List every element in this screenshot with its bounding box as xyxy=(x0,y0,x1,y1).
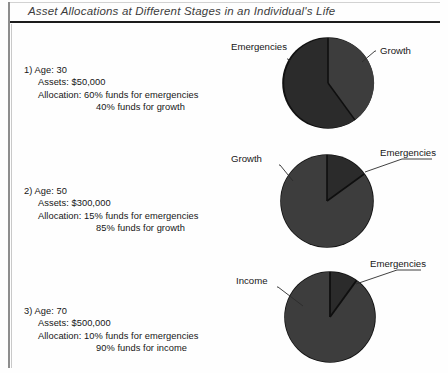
frame-left-border xyxy=(8,2,10,368)
pie-chart-age-30: Emergencies Growth xyxy=(225,30,448,136)
stage-3-assets: Assets: $500,000 xyxy=(38,317,199,329)
figure-page: Asset Allocations at Different Stages in… xyxy=(0,0,448,373)
stage-1-description: 1) Age: 30 Assets: $50,000 Allocation: 6… xyxy=(24,64,199,114)
stage-2-assets: Assets: $300,000 xyxy=(38,197,199,209)
pie-2-label-growth: Growth xyxy=(231,153,262,164)
title-underline-rule xyxy=(10,21,440,23)
pie-3-label-income: Income xyxy=(236,275,267,286)
stage-3-age: 3) Age: 70 xyxy=(24,305,199,317)
stage-2-description: 2) Age: 50 Assets: $300,000 Allocation: … xyxy=(24,185,199,235)
pie-2-label-emergencies: Emergencies xyxy=(380,147,436,158)
figure-title: Asset Allocations at Different Stages in… xyxy=(28,5,335,17)
pie-2-leader-emergencies xyxy=(365,159,432,172)
stage-1-allocation-line-2: 40% funds for growth xyxy=(96,101,199,113)
stage-2-allocation-line-2: 85% funds for growth xyxy=(96,222,199,234)
frame-left-hairline xyxy=(11,24,12,368)
stage-1-age: 1) Age: 30 xyxy=(24,64,199,76)
stage-3-allocation-line-1: Allocation: 10% funds for emergencies xyxy=(38,330,199,342)
stage-2-allocation-line-1: Allocation: 15% funds for emergencies xyxy=(38,210,199,222)
pie-1-label-growth: Growth xyxy=(380,45,411,56)
pie-chart-age-50: Growth Emergencies xyxy=(225,146,448,252)
pie-1-label-emergencies: Emergencies xyxy=(231,41,287,52)
stage-3-allocation-line-2: 90% funds for income xyxy=(96,342,199,354)
pie-chart-age-70: Income Emergencies xyxy=(225,262,448,370)
stage-1-allocation-line-1: Allocation: 60% funds for emergencies xyxy=(38,89,199,101)
stage-1-assets: Assets: $50,000 xyxy=(38,76,199,88)
frame-top-hairline xyxy=(10,2,440,3)
pie-3-leader-emergencies xyxy=(356,270,421,284)
stage-2-age: 2) Age: 50 xyxy=(24,185,199,197)
pie-3-label-emergencies: Emergencies xyxy=(370,258,426,269)
stage-3-description: 3) Age: 70 Assets: $500,000 Allocation: … xyxy=(24,305,199,355)
